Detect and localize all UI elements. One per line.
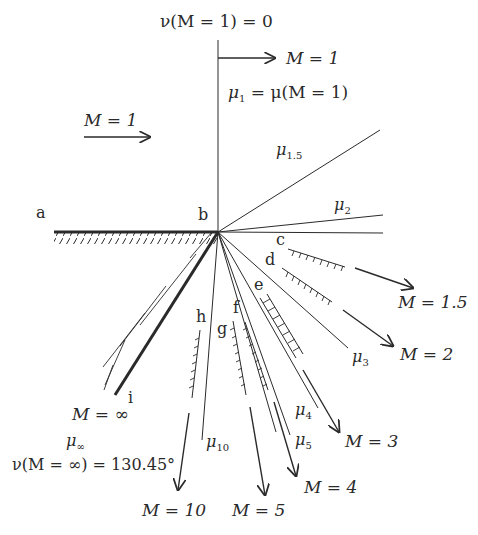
point-b: b <box>198 205 208 224</box>
upstream-flow-label: M = 1 <box>83 110 137 130</box>
flow-arrow-4 <box>274 402 296 476</box>
mu-5-label: μ5 <box>295 430 312 451</box>
mu1-label: μ1 = μ(M = 1) <box>228 82 348 104</box>
mach-3-label: M = 3 <box>344 431 398 451</box>
streamline-d <box>282 268 332 302</box>
streamline-g <box>233 321 246 395</box>
mach-5-label: M = 5 <box>231 500 285 520</box>
point-h: h <box>196 307 206 326</box>
flow-arrow-1.5 <box>355 268 413 288</box>
point-i: i <box>128 388 133 407</box>
wall-hatch <box>54 232 218 244</box>
sonic-flow-label: M = 1 <box>285 48 339 68</box>
mach-line-5 <box>218 232 290 435</box>
point-d: d <box>265 250 275 269</box>
mach-line-3 <box>218 232 348 348</box>
point-g: g <box>217 319 227 338</box>
streamline-c <box>288 249 345 267</box>
mach-inf-label: M = ∞ <box>71 404 129 424</box>
point-e: e <box>254 275 263 294</box>
point-c: c <box>276 230 285 249</box>
mach-line-1.5 <box>218 130 380 232</box>
streamline-h <box>192 330 200 398</box>
expansion-fan-diagram: ν(M = 1) = 0 M = 1 μ1 = μ(M = 1) M = 1 a… <box>0 0 478 535</box>
mach-line-10 <box>202 232 218 440</box>
mach-line-2-lower <box>218 232 383 233</box>
flow-arrow-5 <box>250 407 265 495</box>
mach-2-label: M = 2 <box>399 344 453 364</box>
flow-arrow-10 <box>178 413 189 490</box>
mach-line-2-upper <box>218 215 383 232</box>
point-a: a <box>36 203 46 222</box>
point-f: f <box>233 298 240 317</box>
top-label: ν(M = 1) = 0 <box>160 11 273 31</box>
streamline-f <box>245 322 268 390</box>
mu-4-label: μ4 <box>295 400 312 421</box>
mach-4-label: M = 4 <box>303 477 357 497</box>
streamline-e <box>260 298 296 358</box>
max-turn-angle-label: ν(M = ∞) = 130.45° <box>12 455 175 474</box>
mach-10-label: M = 10 <box>141 500 206 520</box>
mu-3-label: μ3 <box>352 347 369 368</box>
mu-1.5-label: μ1.5 <box>276 140 302 161</box>
flow-arrow-3 <box>303 370 339 432</box>
mach-1.5-label: M = 1.5 <box>397 292 468 312</box>
mu-2-label: μ2 <box>334 195 351 216</box>
mu-10-label: μ10 <box>206 432 229 453</box>
flow-arrow-2 <box>343 310 393 346</box>
mu-inf-label: μ∞ <box>66 431 85 452</box>
